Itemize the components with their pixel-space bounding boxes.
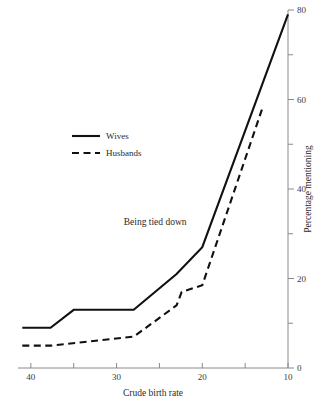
annotation-0: Being tied down [124,217,187,227]
legend-label-wives: Wives [106,131,129,141]
x-tick-label-10: 10 [284,372,294,382]
x-tick-label-30: 30 [112,372,122,382]
y-tick-label-60: 60 [297,95,307,105]
series-line-husbands [22,108,262,345]
series-line-wives [22,14,288,327]
chart-figure: 40302010 Crude birth rate 020406080 Perc… [0,0,319,407]
chart-annotations: Being tied down [124,217,187,227]
x-axis-tick-marks [31,363,288,368]
y-tick-label-0: 0 [297,363,302,373]
y-tick-label-20: 20 [297,274,307,284]
chart-legend: WivesHusbands [72,131,142,158]
y-tick-label-80: 80 [297,5,307,15]
data-series-group [22,14,288,345]
legend-label-husbands: Husbands [106,148,142,158]
x-axis-title: Crude birth rate [123,388,183,398]
line-chart-canvas: 40302010 Crude birth rate 020406080 Perc… [0,0,319,407]
x-tick-label-20: 20 [198,372,208,382]
x-axis: 40302010 Crude birth rate [18,363,293,398]
y-axis-tick-marks [288,10,294,368]
x-axis-tick-labels: 40302010 [26,372,293,382]
y-axis: 020406080 Percentage mentioning [288,5,313,373]
x-tick-label-40: 40 [26,372,36,382]
y-axis-title: Percentage mentioning [303,145,313,233]
